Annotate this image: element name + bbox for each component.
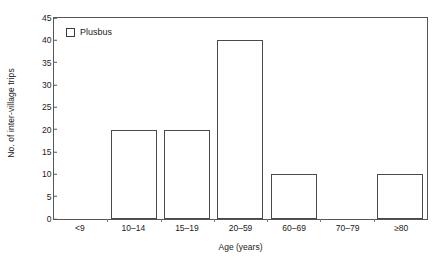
bar-slot bbox=[54, 18, 107, 219]
legend-label: Plusbus bbox=[80, 27, 112, 37]
bar[interactable] bbox=[217, 40, 263, 219]
y-axis-tick: 45 bbox=[42, 14, 54, 23]
x-axis-tick-label: 20–59 bbox=[214, 224, 268, 233]
y-axis-title-text: No. of inter-village trips bbox=[6, 68, 16, 158]
y-axis-tick-label: 45 bbox=[42, 14, 54, 23]
y-axis-tick: 5 bbox=[47, 192, 54, 201]
y-axis-tick: 35 bbox=[42, 58, 54, 67]
x-axis-tick-label: <9 bbox=[53, 224, 107, 233]
bar-slot bbox=[214, 18, 267, 219]
x-axis-minor-tick bbox=[161, 219, 162, 222]
y-axis-tick-label: 10 bbox=[42, 170, 54, 179]
bar[interactable] bbox=[377, 174, 423, 219]
bar-slot bbox=[267, 18, 320, 219]
x-axis-tick-label: ≥80 bbox=[374, 224, 428, 233]
legend: Plusbus bbox=[66, 27, 112, 37]
x-axis-tick-label: 10–14 bbox=[107, 224, 161, 233]
plot-area: 051015202530354045 Plusbus bbox=[53, 17, 428, 220]
bar[interactable] bbox=[111, 130, 157, 219]
y-axis-tick: 10 bbox=[42, 170, 54, 179]
y-axis-tick: 25 bbox=[42, 103, 54, 112]
bar-slot bbox=[320, 18, 373, 219]
x-axis-minor-tick bbox=[214, 219, 215, 222]
y-axis-tick-label: 25 bbox=[42, 103, 54, 112]
x-axis-tick-labels: <910–1415–1920–5960–6970–79≥80 bbox=[53, 224, 428, 233]
bar-slot bbox=[107, 18, 160, 219]
y-axis-tick-label: 20 bbox=[42, 125, 54, 134]
bars-container bbox=[54, 18, 427, 219]
y-axis-title: No. of inter-village trips bbox=[2, 0, 20, 226]
y-axis-tick: 30 bbox=[42, 81, 54, 90]
x-axis-tick-label: 60–69 bbox=[267, 224, 321, 233]
x-axis-tick-label: 15–19 bbox=[160, 224, 214, 233]
x-axis-tick-label: 70–79 bbox=[321, 224, 375, 233]
x-axis-minor-tick bbox=[267, 219, 268, 222]
y-axis-tick-label: 15 bbox=[42, 148, 54, 157]
x-axis-minor-tick bbox=[374, 219, 375, 222]
y-axis-tick: 20 bbox=[42, 125, 54, 134]
y-axis-tick-label: 0 bbox=[47, 215, 54, 224]
x-axis-title: Age (years) bbox=[53, 242, 428, 252]
y-axis-tick-label: 40 bbox=[42, 36, 54, 45]
bar-chart: No. of inter-village trips 0510152025303… bbox=[0, 0, 437, 274]
y-axis-tick: 15 bbox=[42, 148, 54, 157]
y-axis-tick-label: 30 bbox=[42, 81, 54, 90]
y-axis-tick-label: 5 bbox=[47, 192, 54, 201]
y-axis-tick: 40 bbox=[42, 36, 54, 45]
x-axis-minor-tick bbox=[107, 219, 108, 222]
legend-swatch-open-square-icon bbox=[66, 28, 75, 37]
y-axis-tick-label: 35 bbox=[42, 58, 54, 67]
bar[interactable] bbox=[271, 174, 317, 219]
bar-slot bbox=[161, 18, 214, 219]
x-axis-minor-tick bbox=[320, 219, 321, 222]
y-axis-tick: 0 bbox=[47, 215, 54, 224]
bar[interactable] bbox=[164, 130, 210, 219]
bar-slot bbox=[374, 18, 427, 219]
